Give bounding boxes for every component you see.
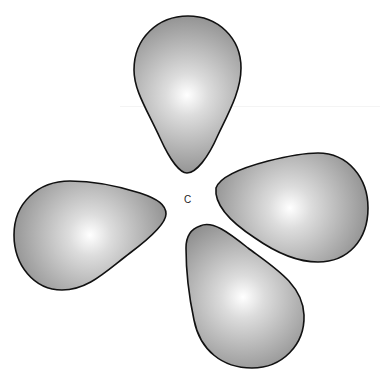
orbital-lobe-left bbox=[14, 181, 166, 290]
carbon-atom-label: C bbox=[184, 194, 191, 205]
orbital-diagram bbox=[0, 0, 380, 384]
orbital-lobe-top bbox=[134, 16, 241, 173]
